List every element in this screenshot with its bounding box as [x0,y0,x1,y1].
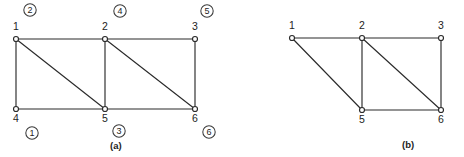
panel-a-edges [16,39,195,109]
edge-2-6 [105,39,195,109]
node-6[interactable] [439,108,444,113]
node-label-3: 3 [438,19,444,31]
node-label-6: 6 [192,112,198,124]
node-label-4: 4 [13,112,19,124]
figure-container: 123456123456(a) 12356(b) [0,0,464,157]
edge-1-5 [292,38,362,110]
panel-b-nodes: 12356 [289,19,444,125]
node-label-3: 3 [192,20,198,32]
badge-label-5: 5 [204,6,209,16]
node-label-2: 2 [102,20,108,32]
panel-a: 123456123456(a) [13,4,215,151]
node-label-6: 6 [438,113,444,125]
node-5[interactable] [103,107,108,112]
graph-figure-svg: 123456123456(a) 12356(b) [0,0,464,157]
node-label-2: 2 [359,19,365,31]
node-label-1: 1 [289,19,295,31]
node-label-1: 1 [13,20,19,32]
caption-panel-a: (a) [110,140,122,151]
panel-b: 12356(b) [289,19,444,150]
caption-panel-b: (b) [402,139,414,150]
node-3[interactable] [439,36,444,41]
badge-label-4: 4 [117,6,122,16]
badge-label-6: 6 [206,127,211,137]
node-6[interactable] [193,107,198,112]
node-1[interactable] [14,37,19,42]
node-2[interactable] [360,36,365,41]
node-label-5: 5 [102,112,108,124]
panel-a-badges: 123456 [24,4,215,139]
node-label-5: 5 [359,113,365,125]
panel-b-edges [292,38,441,110]
node-4[interactable] [14,107,19,112]
node-3[interactable] [193,37,198,42]
badge-label-3: 3 [116,126,121,136]
node-2[interactable] [103,37,108,42]
edge-2-6 [362,38,441,110]
badge-label-2: 2 [27,5,32,15]
node-1[interactable] [290,36,295,41]
node-5[interactable] [360,108,365,113]
edge-1-5 [16,39,105,109]
badge-label-1: 1 [29,128,34,138]
